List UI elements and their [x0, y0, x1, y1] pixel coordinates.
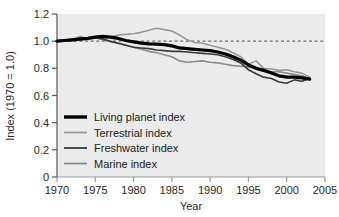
- x-tick-label: 1990: [198, 184, 222, 196]
- y-axis-tick-labels: 00.20.40.60.81.01.2: [34, 8, 49, 183]
- x-tick-label: 1970: [45, 184, 69, 196]
- y-tick-label: 0.4: [34, 117, 49, 129]
- x-tick-label: 1975: [83, 184, 107, 196]
- x-tick-label: 1985: [160, 184, 184, 196]
- x-axis-title: Year: [180, 200, 203, 212]
- x-tick-label: 1980: [121, 184, 145, 196]
- x-axis-ticks: [57, 177, 325, 182]
- x-tick-label: 2005: [313, 184, 337, 196]
- x-axis-tick-labels: 19701975198019851990199520002005: [45, 184, 337, 196]
- y-tick-label: 0: [43, 171, 49, 183]
- y-axis-title: Index (1970 = 1.0): [4, 51, 16, 141]
- y-axis-ticks: [52, 14, 57, 177]
- legend-label-0: Living planet index: [94, 111, 186, 123]
- y-tick-label: 1.0: [34, 35, 49, 47]
- x-tick-label: 1995: [236, 184, 260, 196]
- legend-label-1: Terrestrial index: [94, 127, 172, 139]
- legend-label-3: Marine index: [94, 158, 157, 170]
- y-tick-label: 0.8: [34, 62, 49, 74]
- line-chart: 00.20.40.60.81.01.2 19701975198019851990…: [0, 0, 339, 217]
- x-tick-label: 2000: [274, 184, 298, 196]
- y-tick-label: 0.2: [34, 144, 49, 156]
- y-tick-label: 0.6: [34, 90, 49, 102]
- legend-label-2: Freshwater index: [94, 142, 179, 154]
- chart-figure: 00.20.40.60.81.01.2 19701975198019851990…: [0, 0, 339, 217]
- y-tick-label: 1.2: [34, 8, 49, 20]
